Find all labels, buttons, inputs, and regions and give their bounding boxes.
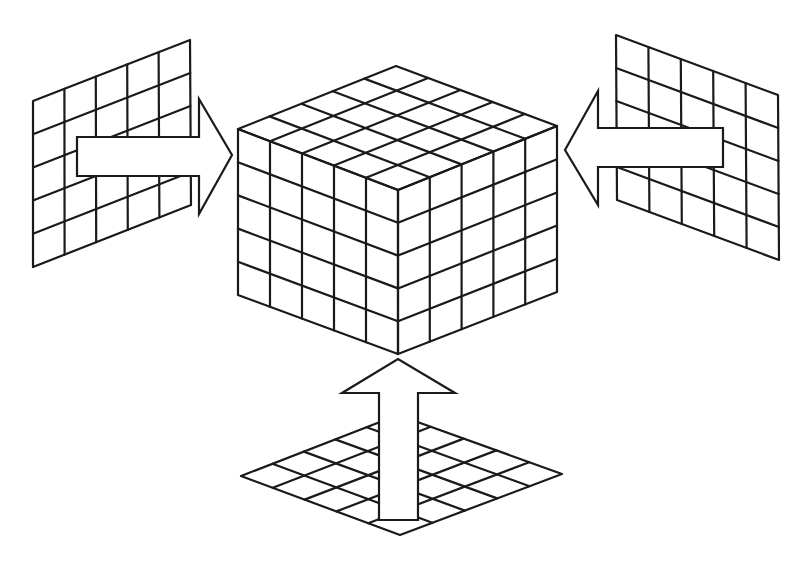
cube-left-face-gridline bbox=[238, 229, 398, 289]
cube-top-face-gridline bbox=[333, 91, 494, 151]
cube-top-face-outline bbox=[238, 66, 557, 190]
left-panel-gridline bbox=[159, 52, 160, 217]
left-arrow-shape bbox=[77, 99, 232, 214]
left-arrow-icon bbox=[77, 99, 232, 214]
cube-right-face-gridline bbox=[398, 226, 557, 289]
cube-top-face-gridline bbox=[270, 78, 428, 141]
right-panel-gridline bbox=[746, 83, 747, 248]
right-arrow-icon bbox=[565, 91, 723, 205]
cube-top-face-gridline bbox=[334, 102, 493, 166]
cube-top-face-gridline bbox=[302, 90, 460, 153]
cube-top-face-gridline bbox=[366, 114, 525, 178]
cube-right-face-gridline bbox=[398, 159, 557, 223]
cube-right-face-gridline bbox=[398, 259, 557, 321]
right-panel-gridline bbox=[617, 167, 779, 227]
cube-top-face-gridline bbox=[270, 116, 430, 177]
right-arrow-shape bbox=[565, 91, 723, 205]
diagram-canvas bbox=[0, 0, 803, 562]
cube-left-face-gridline bbox=[238, 162, 398, 223]
cube-left-face-gridline bbox=[238, 195, 398, 255]
cube-top-face-gridline bbox=[364, 79, 525, 139]
cube bbox=[238, 66, 557, 354]
left-panel-gridline bbox=[33, 73, 190, 134]
cube-top-face-gridline bbox=[301, 104, 461, 165]
cube-right-face-gridline bbox=[398, 192, 557, 255]
cube-projection-diagram bbox=[0, 0, 803, 562]
cube-left-face-outline bbox=[238, 129, 398, 354]
right-panel-gridline bbox=[616, 68, 778, 128]
cube-right-face-outline bbox=[398, 126, 557, 354]
left-panel-gridline bbox=[33, 172, 191, 234]
cube-left-face-gridline bbox=[238, 262, 398, 321]
